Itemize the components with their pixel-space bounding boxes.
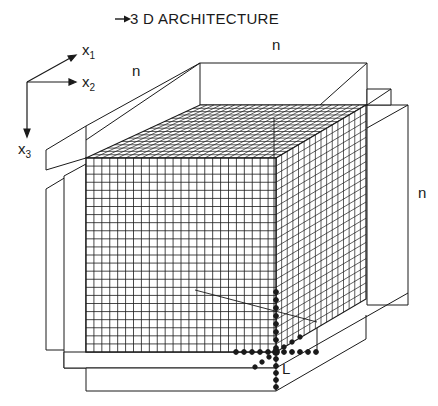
corner-label-L: L bbox=[282, 360, 290, 377]
diagram-canvas: 3 D ARCHITECTURE x1 x2 x3 n n n L bbox=[0, 0, 438, 406]
dimension-label-left: n bbox=[132, 62, 140, 79]
axis-label-x1: x1 bbox=[82, 41, 95, 61]
axes-icon bbox=[24, 55, 76, 137]
dimension-label-top: n bbox=[272, 36, 280, 53]
axis-label-x3: x3 bbox=[18, 140, 31, 160]
axis-label-x2: x2 bbox=[82, 73, 95, 93]
dimension-label-right: n bbox=[418, 184, 426, 201]
diagram-title: 3 D ARCHITECTURE bbox=[130, 10, 279, 27]
3d-architecture-diagram bbox=[0, 0, 438, 406]
title-arrow-icon bbox=[115, 16, 131, 23]
